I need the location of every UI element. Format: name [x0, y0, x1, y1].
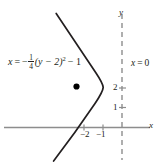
x-tick-label-minus2: −2	[80, 130, 90, 139]
directrix-equals: =	[137, 58, 142, 68]
equation-tail: − 1	[68, 57, 81, 67]
fraction-denominator: 4	[28, 63, 34, 70]
equation-fraction: 1 4	[28, 54, 34, 70]
directrix-value: 0	[145, 58, 150, 68]
x-axis-label: x	[149, 121, 153, 130]
fraction-numerator: 1	[28, 54, 34, 61]
x-tick-label-minus1: −1	[96, 130, 106, 139]
focus-point	[73, 83, 79, 89]
plot-canvas	[0, 0, 162, 164]
equation-sign: −	[22, 57, 28, 67]
y-axis-label: y	[119, 8, 123, 17]
y-tick-label-1: 1	[113, 103, 118, 112]
parabola-figure: x = − 1 4 (y − 2)2 − 1 x=0 y x 2 1 −2 −1	[0, 0, 162, 164]
y-tick-label-2: 2	[113, 83, 118, 92]
equation-exponent: 2	[63, 56, 66, 63]
curve-equation-label: x = − 1 4 (y − 2)2 − 1	[8, 54, 81, 70]
directrix-equation-label: x=0	[131, 59, 149, 69]
equation-lhs: x	[8, 57, 12, 67]
equation-group: (y − 2)	[35, 57, 63, 67]
equation-equals: =	[14, 57, 20, 67]
directrix-variable: x	[131, 58, 135, 68]
